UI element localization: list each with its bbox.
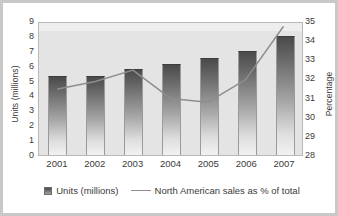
y-right-tick-28: 28 bbox=[305, 150, 321, 160]
y-left-tick-4: 4 bbox=[20, 90, 34, 100]
line-series-percentage bbox=[39, 23, 302, 155]
y-right-tick-31: 31 bbox=[305, 93, 321, 103]
y-left-tick-8: 8 bbox=[20, 31, 34, 41]
y-right-tick-33: 33 bbox=[305, 54, 321, 64]
x-axis-ticks: 2001200220032004200520062007 bbox=[38, 158, 303, 172]
y-right-tick-34: 34 bbox=[305, 35, 321, 45]
x-tick-2001: 2001 bbox=[38, 158, 76, 169]
percentage-line-path bbox=[58, 27, 283, 102]
x-tick-2005: 2005 bbox=[189, 158, 227, 169]
chart-figure: Units (millions) Percentage 9876543210 3… bbox=[0, 0, 338, 216]
x-tick-2002: 2002 bbox=[76, 158, 114, 169]
chart-legend: Units (millions) North American sales as… bbox=[3, 185, 338, 196]
legend-label-percentage: North American sales as % of total bbox=[155, 185, 300, 196]
legend-item-units: Units (millions) bbox=[44, 185, 118, 196]
y-left-tick-1: 1 bbox=[20, 135, 34, 145]
y-left-tick-2: 2 bbox=[20, 120, 34, 130]
y-right-tick-32: 32 bbox=[305, 73, 321, 83]
y-right-tick-29: 29 bbox=[305, 131, 321, 141]
bar-swatch-icon bbox=[44, 187, 52, 195]
y-left-tick-3: 3 bbox=[20, 105, 34, 115]
legend-label-units: Units (millions) bbox=[56, 185, 118, 196]
y-left-tick-9: 9 bbox=[20, 16, 34, 26]
legend-item-percentage: North American sales as % of total bbox=[131, 185, 300, 196]
y-axis-right-ticks: 3534333231302928 bbox=[305, 17, 321, 156]
y-left-tick-7: 7 bbox=[20, 46, 34, 56]
y-left-tick-0: 0 bbox=[20, 150, 34, 160]
y-axis-right-title: Percentage bbox=[324, 51, 334, 137]
y-right-tick-35: 35 bbox=[305, 16, 321, 26]
x-tick-2003: 2003 bbox=[114, 158, 152, 169]
y-left-tick-5: 5 bbox=[20, 76, 34, 86]
y-right-tick-30: 30 bbox=[305, 112, 321, 122]
y-axis-left-title: Units (millions) bbox=[10, 51, 20, 137]
y-axis-left-ticks: 9876543210 bbox=[20, 17, 34, 156]
y-left-tick-6: 6 bbox=[20, 61, 34, 71]
x-tick-2004: 2004 bbox=[152, 158, 190, 169]
x-tick-2007: 2007 bbox=[265, 158, 303, 169]
x-tick-2006: 2006 bbox=[227, 158, 265, 169]
line-swatch-icon bbox=[131, 190, 151, 191]
plot-area bbox=[38, 22, 303, 156]
